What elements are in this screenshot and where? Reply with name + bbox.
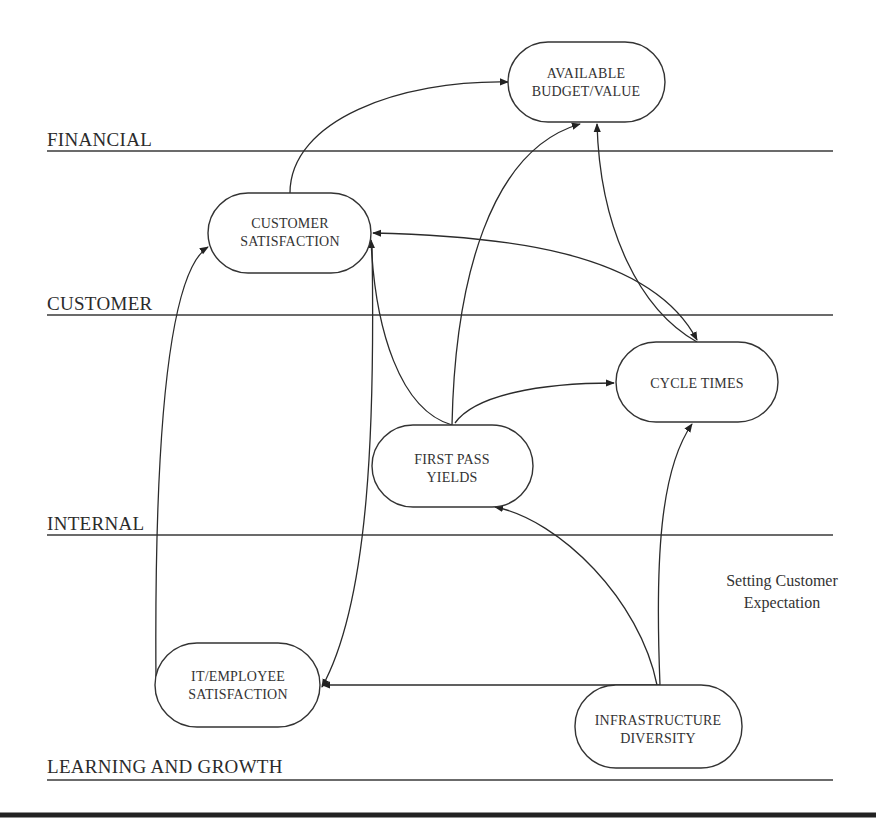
annotation-line1: Setting Customer [726,572,838,590]
node-label-infra-line1: INFRASTRUCTURE [595,713,721,728]
node-label-itemp-line2: SATISFACTION [188,687,287,702]
node-shape-budget [508,42,665,122]
lane-financial: FINANCIAL [47,129,833,151]
node-cycle-times: CYCLE TIMES [616,342,778,422]
node-label-itemp-line1: IT/EMPLOYEE [191,669,285,684]
annotation-setting-customer-expectation: Setting Customer Expectation [726,572,838,612]
lane-label-internal: INTERNAL [47,513,144,534]
lane-internal: INTERNAL [47,513,833,535]
node-label-fpy-line1: FIRST PASS [414,452,490,467]
edge-fpy-to-custsat [371,240,452,425]
edge-itemp-to-custsat [156,247,208,682]
edge-infra-to-cycle [658,424,692,685]
edge-custsat-to-budget [290,82,508,193]
lane-label-customer: CUSTOMER [47,293,153,314]
node-label-cycle-line1: CYCLE TIMES [650,376,743,391]
lane-label-learning-growth: LEARNING AND GROWTH [47,756,283,777]
node-label-custsat-line1: CUSTOMER [251,216,329,231]
edge-cycle-budget-bidirectional [597,124,697,342]
node-label-budget-line1: AVAILABLE [547,66,625,81]
node-it-employee-satisfaction: IT/EMPLOYEE SATISFACTION [155,643,320,727]
annotation-line2: Expectation [744,594,820,612]
edge-fpy-to-cycle [455,383,614,423]
node-first-pass-yields: FIRST PASS YIELDS [372,425,533,507]
lane-label-financial: FINANCIAL [47,129,152,150]
node-label-budget-line2: BUDGET/VALUE [532,84,641,99]
edge-fpy-to-budget [452,124,580,425]
node-available-budget-value: AVAILABLE BUDGET/VALUE [508,42,665,122]
edge-custsat-to-itemp [322,245,373,687]
node-customer-satisfaction: CUSTOMER SATISFACTION [208,193,371,273]
strategy-map-diagram: FINANCIAL CUSTOMER INTERNAL LEARNING AND… [0,0,876,828]
node-label-infra-line2: DIVERSITY [620,731,696,746]
edge-infra-to-fpy [495,507,657,685]
node-label-fpy-line2: YIELDS [427,470,478,485]
node-shape-itemp [155,643,320,727]
edge-custsat-cycle-bidirectional [373,233,697,340]
lane-customer: CUSTOMER [47,293,833,315]
node-label-custsat-line2: SATISFACTION [240,234,339,249]
node-infrastructure-diversity: INFRASTRUCTURE DIVERSITY [575,685,742,768]
node-shape-custsat [208,193,371,273]
